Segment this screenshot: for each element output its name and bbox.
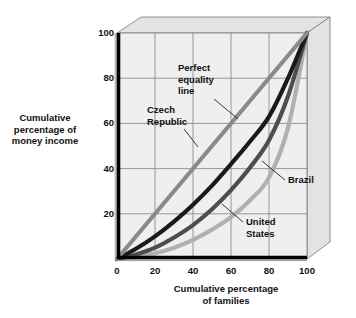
y-tick-60: 60 bbox=[90, 117, 114, 128]
chart-top-face bbox=[117, 17, 330, 33]
y-tick-20: 20 bbox=[90, 208, 114, 219]
y-tick-80: 80 bbox=[90, 72, 114, 83]
y-tick-40: 40 bbox=[90, 163, 114, 174]
y-tick-100: 100 bbox=[90, 27, 114, 38]
x-tick-100: 100 bbox=[295, 265, 319, 276]
lorenz-curve-chart: 100 80 60 40 20 0 20 40 60 80 100 Cumula… bbox=[0, 0, 356, 318]
x-tick-40: 40 bbox=[183, 265, 203, 276]
x-tick-20: 20 bbox=[145, 265, 165, 276]
x-axis-title: Cumulative percentage of families bbox=[160, 283, 292, 306]
x-tick-80: 80 bbox=[259, 265, 279, 276]
x-tick-60: 60 bbox=[221, 265, 241, 276]
x-tick-0: 0 bbox=[107, 265, 127, 276]
annotation-czech-republic: Czech Republic bbox=[147, 104, 187, 127]
annotation-united-states: United States bbox=[246, 216, 276, 239]
annotation-perfect-equality-line: Perfect equality line bbox=[178, 62, 214, 97]
chart-right-face bbox=[307, 17, 330, 259]
annotation-brazil: Brazil bbox=[288, 174, 314, 186]
y-axis-title: Cumulative percentage of money income bbox=[2, 112, 88, 147]
